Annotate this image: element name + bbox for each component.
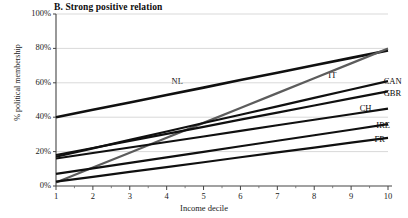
series-line-ire <box>56 124 388 174</box>
plot-canvas <box>0 0 408 218</box>
series-line-nl <box>56 50 388 117</box>
chart-figure: B. Strong positive relation % political … <box>0 0 408 218</box>
